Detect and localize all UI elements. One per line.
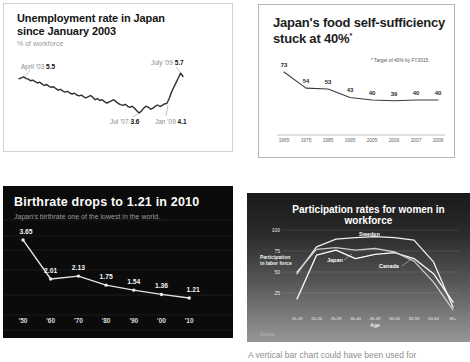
x-tick-label: 15-19 <box>292 316 303 321</box>
chart-title-line2: since January 2003 <box>17 25 165 38</box>
x-tick-label: 2005 <box>367 138 378 143</box>
series-label-japan: Japan <box>327 257 344 263</box>
data-label: 1.75 <box>99 273 112 280</box>
data-label: 1.21 <box>187 286 200 293</box>
chart-card-unemployment: Unemployment rate in Japan since January… <box>3 3 233 152</box>
x-tick-label: '60 <box>46 317 55 324</box>
x-tick-label: 25-29 <box>331 316 342 321</box>
data-label: 53 <box>325 79 332 85</box>
chart-title-line2: stuck at 40%* <box>273 31 445 47</box>
annotation-value: 3.6 <box>130 118 139 125</box>
data-point <box>77 274 80 277</box>
chart-title: Participation rates for women in workfor… <box>271 204 466 226</box>
chart-title: Japan's food self-sufficiency stuck at 4… <box>273 15 445 48</box>
chart-subtitle: Japan's birthrate one of the lowest in t… <box>14 213 160 220</box>
data-point <box>132 288 135 291</box>
source-note: Source: <box>260 332 276 337</box>
data-label: 43 <box>347 87 354 93</box>
x-tick-label: 1985 <box>323 138 334 143</box>
x-tick-label: 65+ <box>449 316 457 321</box>
annotation-leader-line <box>166 105 168 116</box>
annotation-jul-07: Jul '07 3.6 <box>110 118 139 125</box>
annotation-value: 4.1 <box>178 118 187 125</box>
annotation-leader-line <box>176 67 180 72</box>
x-tick-label: '80 <box>102 317 111 324</box>
x-tick-label: '50 <box>19 317 28 324</box>
annotation-date: Jul '07 <box>110 118 129 125</box>
annotation-value: 5.7 <box>175 59 184 66</box>
annotation-leader-line <box>133 114 138 117</box>
data-point <box>49 277 52 280</box>
data-point <box>160 293 163 296</box>
x-tick-label: 20-24 <box>311 316 322 321</box>
book-page: Unemployment rate in Japan since January… <box>0 0 470 362</box>
x-tick-label: 2006 <box>389 138 400 143</box>
series-label-sweden: Sweden <box>359 231 380 237</box>
chart-title: Birthrate drops to 1.21 in 2010 <box>14 195 199 209</box>
x-tick-label: 1995 <box>345 138 356 143</box>
data-label: 1.54 <box>127 278 140 285</box>
data-point <box>188 296 191 299</box>
y-tick-label: 25 <box>274 290 280 296</box>
y-tick-label: 75 <box>274 248 280 254</box>
annotation-leader-line <box>25 70 30 76</box>
y-tick-label: 50 <box>274 269 280 275</box>
x-tick-label: '10 <box>185 317 194 324</box>
chart-title-line2-text: stuck at 40% <box>273 31 349 46</box>
x-tick-label: 1975 <box>301 138 312 143</box>
page-caption: A vertical bar chart could have been use… <box>248 350 470 360</box>
chart-card-food-self-sufficiency: * Target of 40% by FY2015. 7354534340394… <box>258 4 455 158</box>
x-tick-label: 2007 <box>411 138 422 143</box>
annotation-value: 5.5 <box>46 63 55 70</box>
data-label: 73 <box>281 62 288 68</box>
annotation-date: April '03 <box>21 63 44 70</box>
annotation-date: Jan '09 <box>155 118 176 125</box>
annotation-april-03: April '03 5.5 <box>21 63 55 70</box>
unemployment-line <box>19 73 183 113</box>
chart-card-workforce-participation: Participation in labor force Age Source:… <box>247 193 470 342</box>
y-tick-label: 100 <box>272 227 281 233</box>
x-tick-label: 50-54 <box>389 316 400 321</box>
data-label: 2.13 <box>72 264 85 271</box>
x-axis-title: Age <box>370 322 380 328</box>
data-label: 1.36 <box>155 282 168 289</box>
x-tick-label: 60-64 <box>428 316 439 321</box>
data-label: 40 <box>413 90 420 96</box>
data-label: 40 <box>369 90 376 96</box>
canada-label-pointer <box>402 260 410 266</box>
annotation-july-09: July '09 5.7 <box>151 59 184 66</box>
data-label: 2.01 <box>44 267 57 274</box>
annotation-jan-09: Jan '09 4.1 <box>155 118 187 125</box>
x-tick-label: 1965 <box>279 138 290 143</box>
chart-title-line1: Japan's food self-sufficiency <box>273 15 445 31</box>
chart-title: Unemployment rate in Japan since January… <box>17 12 165 38</box>
food-line <box>284 72 438 101</box>
data-label: 3.65 <box>19 228 32 235</box>
y-axis-title-line2: in labor force <box>260 260 292 266</box>
data-point <box>104 283 107 286</box>
chart-subtitle: % of workforce <box>17 40 63 47</box>
data-point <box>21 238 24 241</box>
x-tick-label: 30-44 <box>350 316 361 321</box>
x-tick-label: 2008 <box>433 138 444 143</box>
annotation-date: July '09 <box>151 59 173 66</box>
x-tick-label: '00 <box>157 317 166 324</box>
footnote: * Target of 40% by FY2015. <box>371 58 430 63</box>
x-tick-label: 55-59 <box>409 316 420 321</box>
data-label: 39 <box>391 91 398 97</box>
data-label: 54 <box>303 78 310 84</box>
series-label-canada: Canada <box>379 263 400 269</box>
chart-title-line1: Unemployment rate in Japan <box>17 12 165 25</box>
data-label: 40 <box>435 90 442 96</box>
x-tick-label: '90 <box>129 317 138 324</box>
asterisk-mark: * <box>349 32 352 39</box>
x-tick-label: 45-49 <box>370 316 381 321</box>
x-tick-label: '70 <box>74 317 83 324</box>
chart-card-birthrate: 3.652.012.131.751.541.361.21'50'60'70'80… <box>3 186 233 338</box>
